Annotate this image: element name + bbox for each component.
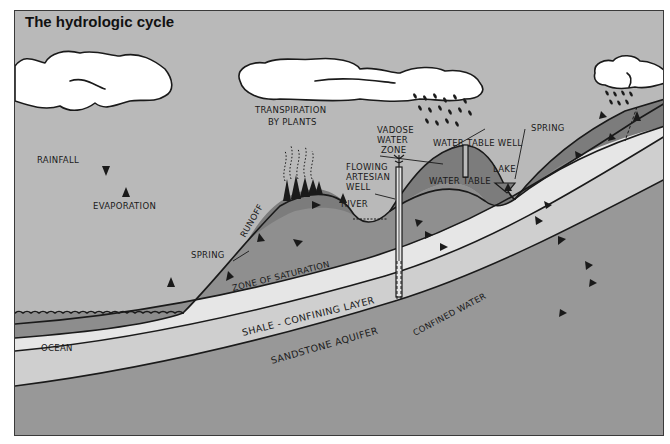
water-table-well-icon xyxy=(463,145,468,177)
label-spring-right: SPRING xyxy=(531,123,565,133)
label-evaporation: EVAPORATION xyxy=(93,201,156,211)
label-rainfall: RAINFALL xyxy=(37,155,79,165)
label-water-table-well: WATER TABLE WELL xyxy=(433,138,522,148)
label-river: RIVER xyxy=(341,199,368,209)
label-vadose-water: WATER xyxy=(377,135,408,145)
label-artesian: ARTESIAN xyxy=(346,172,390,182)
label-flowing: FLOWING xyxy=(346,162,388,172)
label-water-table: WATER TABLE xyxy=(429,176,491,186)
label-vadose: VADOSE xyxy=(377,125,414,135)
label-ocean: OCEAN xyxy=(41,343,73,353)
label-transpiration: TRANSPIRATION xyxy=(254,105,326,115)
label-by-plants: BY PLANTS xyxy=(268,117,317,127)
diagram-title: The hydrologic cycle xyxy=(25,13,174,30)
flowing-artesian-well-icon xyxy=(394,155,404,301)
label-well: WELL xyxy=(346,182,370,192)
label-lake: LAKE xyxy=(493,164,516,174)
label-spring-left: SPRING xyxy=(191,250,225,260)
hydrologic-cycle-diagram: RAINFALL EVAPORATION TRANSPIRATION BY PL… xyxy=(15,11,664,436)
diagram-frame: The hydrologic cycle xyxy=(14,10,664,436)
label-vadose-zone: ZONE xyxy=(381,145,406,155)
